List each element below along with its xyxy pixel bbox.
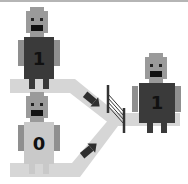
robot-arm-right — [175, 86, 181, 112]
robot-arm-left — [132, 86, 138, 112]
robot-output: 1 — [132, 53, 181, 133]
robot-head — [145, 53, 167, 83]
robot-mouth — [150, 71, 162, 77]
robot-arm-left — [18, 125, 24, 151]
robot-leg-right — [161, 123, 167, 133]
robot-eye-left — [31, 18, 34, 21]
robot-leg-left — [29, 79, 35, 89]
robot-label: 0 — [33, 133, 46, 154]
robot-mouth — [31, 25, 43, 31]
robot-eye-right — [159, 64, 162, 67]
robot-label: 1 — [33, 48, 46, 69]
robot-arm-right — [54, 125, 60, 151]
robot-head — [26, 92, 48, 122]
robot-leg-right — [43, 164, 49, 174]
robot-eye-right — [40, 103, 43, 106]
robot-input-top: 1 — [18, 7, 60, 89]
robot-eye-left — [31, 103, 34, 106]
robot-leg-left — [147, 123, 153, 133]
robot-eye-left — [150, 64, 153, 67]
robot-arm-left — [18, 40, 24, 66]
robot-label: 1 — [151, 92, 164, 113]
robot-eye-right — [40, 18, 43, 21]
robot-head — [26, 7, 48, 37]
robot-mouth — [31, 110, 43, 116]
robot-input-bottom: 0 — [18, 92, 60, 174]
robot-arm-right — [54, 40, 60, 66]
robot-gate-diagram: 1 0 1 — [0, 0, 188, 184]
robot-leg-right — [43, 79, 49, 89]
robot-leg-left — [29, 164, 35, 174]
